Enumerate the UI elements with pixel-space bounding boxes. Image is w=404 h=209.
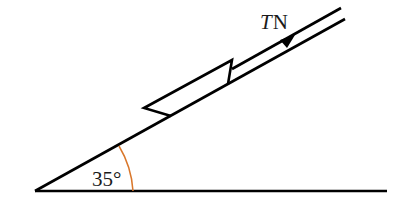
force-unit: N xyxy=(273,10,288,34)
inclined-plane-diagram: 35° TN xyxy=(0,0,404,209)
force-symbol: T xyxy=(260,10,273,34)
force-label: TN xyxy=(260,10,288,34)
angle-label: 35° xyxy=(92,167,121,191)
incline-surface xyxy=(35,19,345,191)
